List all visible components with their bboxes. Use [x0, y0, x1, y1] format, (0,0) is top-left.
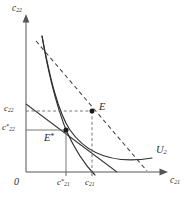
x-tick-label-c21-star: c*21: [57, 178, 70, 188]
x-axis-arrowhead: [160, 169, 169, 176]
origin-label: 0: [14, 177, 19, 187]
point-Estar-marker: [64, 128, 69, 133]
budget-line-dashed: [36, 41, 147, 171]
tick-marks: [66, 172, 92, 176]
budget-line-solid: [26, 104, 117, 172]
y-tick-label-c22: c22: [4, 104, 13, 114]
y-axis-arrowhead: [23, 14, 30, 23]
point-E-marker: [90, 109, 95, 114]
figure-canvas: [0, 0, 188, 202]
point-label-E: E: [99, 102, 105, 113]
e-guides: [26, 111, 92, 172]
y-tick-label-c22-star: c*22: [2, 123, 15, 133]
indifference-curve-u2: [42, 36, 152, 160]
y-axis-label: c22: [12, 4, 22, 14]
x-tick-label-c21: c21: [85, 178, 94, 188]
axis-group: [23, 14, 168, 175]
x-axis-label: c21: [170, 176, 180, 186]
indifference-curve-steep: [42, 36, 95, 175]
indifference-curve-figure: c22 c21 0 c22 c*22 c*21 c21 E E* U2: [0, 0, 188, 202]
point-label-Estar: E*: [44, 133, 54, 144]
curve-label-u2: U2: [156, 145, 167, 156]
